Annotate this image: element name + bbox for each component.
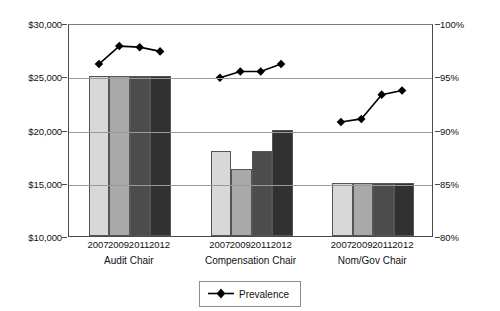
y-axis-left-tick-label: $30,000 [28, 19, 62, 30]
plot-area [68, 24, 433, 237]
x-axis-tick-label: 2011 [372, 239, 392, 250]
y-axis-left-tick-mark [62, 184, 67, 185]
x-axis-tick-label: 2012 [271, 239, 292, 250]
prevalence-data-point [277, 60, 286, 69]
x-axis-tick-label: 2012 [149, 239, 170, 250]
y-axis-right-tick-mark [435, 77, 440, 78]
y-axis-right: 80%85%90%95%100% [440, 24, 498, 237]
prevalence-line-segment [220, 64, 281, 78]
x-axis-group-label: Compensation Chair [205, 255, 296, 266]
prevalence-data-point [156, 47, 165, 56]
x-axis-group-label: Nom/Gov Chair [338, 255, 407, 266]
y-axis-left-tick-label: $15,000 [28, 178, 62, 189]
y-axis-right-tick-mark [435, 184, 440, 185]
legend-label: Prevalence [239, 289, 289, 300]
y-axis-left-tick-mark [62, 24, 67, 25]
y-axis-left-tick-label: $25,000 [28, 72, 62, 83]
y-axis-right-tick-mark [435, 24, 440, 25]
x-axis-tick-label: 2009 [230, 239, 251, 250]
y-axis-left-tick-mark [62, 237, 67, 238]
y-axis-left: $10,000$15,000$20,000$25,000$30,000 [0, 24, 62, 237]
chart-container: $10,000$15,000$20,000$25,000$30,000 80%8… [0, 0, 500, 311]
prevalence-data-point [398, 86, 407, 95]
prevalence-line-segment [341, 90, 402, 122]
gridline [69, 78, 432, 79]
y-axis-left-tick-label: $10,000 [28, 232, 62, 243]
x-axis-tick-label: 2011 [251, 239, 271, 250]
x-axis-group-label: Audit Chair [104, 255, 153, 266]
y-axis-right-tick-label: 90% [440, 125, 459, 136]
prevalence-line-segment [99, 46, 160, 64]
prevalence-line-layer [69, 25, 432, 236]
y-axis-right-tick-label: 95% [440, 72, 459, 83]
y-axis-left-tick-label: $20,000 [28, 125, 62, 136]
legend: Prevalence [199, 281, 301, 307]
y-axis-right-tick-label: 85% [440, 178, 459, 189]
gridline [69, 132, 432, 133]
prevalence-data-point [135, 43, 144, 52]
y-axis-left-tick-mark [62, 77, 67, 78]
prevalence-data-point [236, 67, 245, 76]
y-axis-left-tick-mark [62, 131, 67, 132]
x-axis-tick-label: 2007 [331, 239, 352, 250]
y-axis-right-tick-mark [435, 237, 440, 238]
x-axis-tick-label: 2012 [392, 239, 413, 250]
y-axis-right-tick-mark [435, 131, 440, 132]
x-axis-tick-label: 2007 [209, 239, 230, 250]
y-axis-right-tick-label: 80% [440, 232, 459, 243]
gridline [69, 185, 432, 186]
x-axis-tick-label: 2007 [88, 239, 109, 250]
x-axis-tick-label: 2009 [351, 239, 372, 250]
prevalence-data-point [337, 118, 346, 127]
prevalence-marker-icon [208, 285, 234, 303]
prevalence-data-point [256, 67, 265, 76]
x-axis: 2007200920112012Audit Chair2007200920112… [68, 239, 433, 281]
y-axis-right-tick-label: 100% [440, 19, 464, 30]
x-axis-tick-label: 2009 [108, 239, 129, 250]
x-axis-tick-label: 2011 [129, 239, 149, 250]
